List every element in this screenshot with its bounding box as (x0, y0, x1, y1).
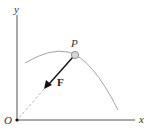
diagram-canvas: y x O P F (0, 0, 149, 139)
dashed-line-to-origin (18, 89, 44, 119)
y-axis-label: y (13, 3, 19, 15)
trajectory-curve (25, 51, 118, 110)
x-axis-label: x (138, 113, 144, 125)
force-label: F (57, 76, 64, 88)
origin-label: O (4, 114, 12, 126)
particle-p (71, 51, 78, 58)
point-label: P (70, 37, 78, 49)
origin-dot (15, 118, 18, 121)
